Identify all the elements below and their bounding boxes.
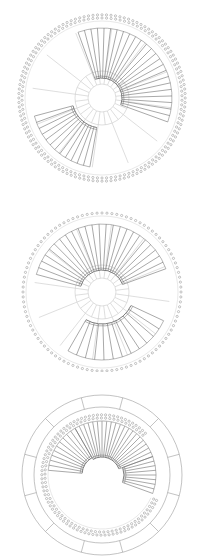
circular-tree-2 xyxy=(0,186,204,372)
figure xyxy=(0,0,204,558)
circular-tree-1 xyxy=(0,0,204,186)
circular-tree-3 xyxy=(0,372,204,558)
